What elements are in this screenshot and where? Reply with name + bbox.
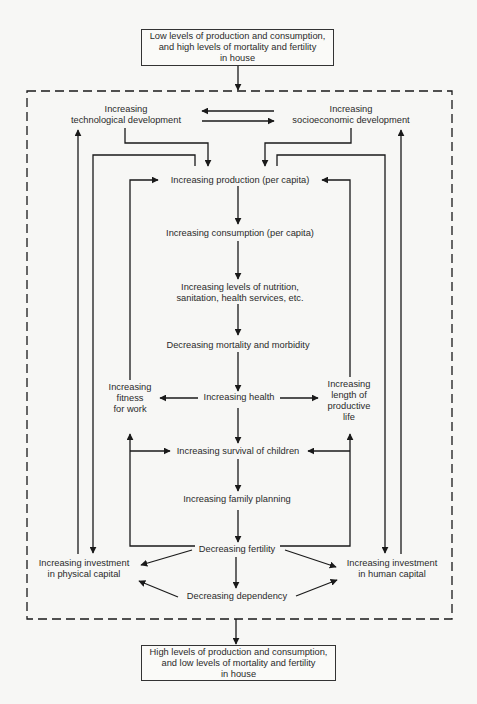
node-nutrition: Increasing levels of nutrition, sanitati…	[176, 282, 303, 304]
node-text: length of	[328, 390, 371, 401]
end-line-2: and low levels of mortality and fertilit…	[142, 658, 335, 669]
end-line-1: High levels of production and consumptio…	[142, 647, 335, 658]
node-fitness-for-work: Increasing fitness for work	[109, 382, 152, 415]
dashed-region	[27, 91, 452, 619]
node-production: Increasing production (per capita)	[171, 175, 310, 186]
node-text: Increasing	[292, 104, 409, 115]
node-fertility: Decreasing fertility	[199, 544, 275, 555]
node-text: technological development	[71, 115, 181, 126]
node-dependency: Decreasing dependency	[187, 591, 287, 602]
node-survival-of-children: Increasing survival of children	[177, 446, 299, 457]
node-text: Increasing investment	[347, 558, 437, 569]
node-technological-development: Increasing technological development	[71, 104, 181, 126]
node-invest-human-capital: Increasing investment in human capital	[347, 558, 437, 580]
end-line-3: in house	[142, 669, 335, 680]
node-mortality: Decreasing mortality and morbidity	[166, 340, 309, 351]
node-text: in physical capital	[39, 569, 129, 580]
node-text: Increasing	[71, 104, 181, 115]
end-state-box: High levels of production and consumptio…	[141, 645, 336, 681]
node-socioeconomic-development: Increasing socioeconomic development	[292, 104, 409, 126]
node-text: Increasing	[109, 382, 152, 393]
node-text: sanitation, health services, etc.	[176, 293, 303, 304]
node-text: for work	[109, 404, 152, 415]
node-invest-physical-capital: Increasing investment in physical capita…	[39, 558, 129, 580]
node-family-planning: Increasing family planning	[183, 494, 291, 505]
node-health: Increasing health	[204, 392, 275, 403]
start-line-3: in house	[142, 53, 333, 64]
start-state-box: Low levels of production and consumption…	[141, 29, 334, 66]
node-text: Increasing	[328, 379, 371, 390]
node-text: socioeconomic development	[292, 115, 409, 126]
node-text: in human capital	[347, 569, 437, 580]
node-consumption: Increasing consumption (per capita)	[166, 228, 314, 239]
node-text: Increasing levels of nutrition,	[176, 282, 303, 293]
start-line-2: and high levels of mortality and fertili…	[142, 42, 333, 53]
node-text: Increasing investment	[39, 558, 129, 569]
node-text: fitness	[109, 393, 152, 404]
start-line-1: Low levels of production and consumption…	[142, 31, 333, 42]
node-text: life	[328, 412, 371, 423]
node-text: productive	[328, 401, 371, 412]
node-productive-life: Increasing length of productive life	[328, 379, 371, 423]
